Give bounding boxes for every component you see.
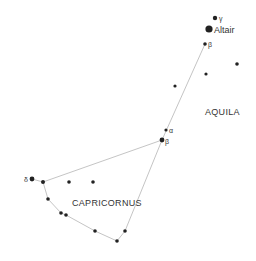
constellation-line (162, 44, 205, 140)
star-alpha-cap (164, 128, 167, 131)
star-cap-star-7 (64, 213, 68, 217)
star-label-altair: Altair (214, 25, 235, 35)
star-map-canvas: γAltairβαβδ AQUILACAPRICORNUS (0, 0, 256, 261)
star-cap-star-5 (46, 197, 50, 201)
constellation-labels: AQUILACAPRICORNUS (72, 107, 240, 208)
star-label-delta-cap: δ (24, 176, 28, 183)
constellation-line (117, 231, 125, 241)
star-aql-star-2 (204, 72, 207, 75)
constellation-line (48, 199, 61, 213)
constellation-line (66, 215, 95, 231)
constellation-label-capricornus: CAPRICORNUS (72, 198, 142, 208)
constellation-lines (32, 44, 205, 241)
star-cap-star-3 (67, 180, 71, 184)
star-label-beta-aql: β (208, 41, 212, 49)
star-aql-star-3 (173, 84, 176, 87)
star-delta-cap (30, 177, 35, 182)
star-beta-aql (203, 42, 207, 46)
star-altair (205, 25, 212, 32)
constellation-line (125, 140, 162, 231)
star-cap-star-2 (41, 180, 45, 184)
star-gamma-aql (213, 16, 217, 20)
star-beta-cap (160, 138, 165, 143)
star-cap-star-10 (123, 229, 127, 233)
star-label-beta-cap: β (165, 138, 169, 146)
star-chart: γAltairβαβδ AQUILACAPRICORNUS (0, 0, 256, 261)
star-aql-star-1 (235, 62, 239, 66)
star-cap-star-4 (91, 180, 95, 184)
star-labels: γAltairβαβδ (24, 15, 235, 183)
star-cap-star-6 (59, 211, 63, 215)
star-cap-star-9 (115, 239, 119, 243)
constellation-line (43, 182, 48, 199)
star-label-gamma-aql: γ (219, 15, 223, 23)
constellation-line (95, 231, 117, 241)
star-label-alpha-cap: α (169, 127, 173, 134)
star-cap-star-8 (93, 229, 97, 233)
constellation-line (43, 140, 162, 182)
constellation-label-aquila: AQUILA (205, 107, 240, 117)
